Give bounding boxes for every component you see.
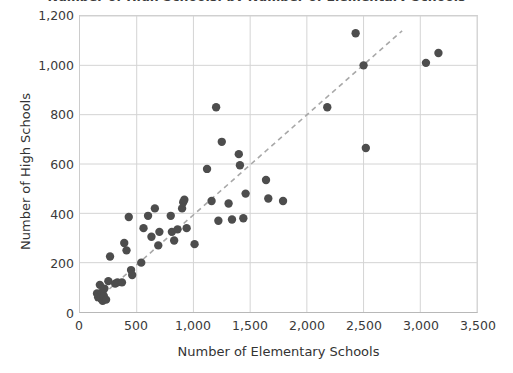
data-point (434, 49, 442, 57)
data-point (224, 199, 232, 207)
data-point (241, 189, 249, 197)
data-point (203, 165, 211, 173)
data-point (139, 224, 147, 232)
y-tick-label: 1,200 (4, 8, 74, 23)
x-tick-label: 1,500 (232, 318, 268, 333)
data-point (228, 215, 236, 223)
y-tick-label: 200 (4, 256, 74, 271)
chart-title: Number of High Schools, by Number of Ele… (0, 0, 513, 1)
data-point (151, 204, 159, 212)
data-point (190, 240, 198, 248)
data-point (207, 197, 215, 205)
data-point (359, 61, 367, 69)
x-tick-label: 2,500 (346, 318, 382, 333)
data-point (279, 197, 287, 205)
x-tick-label: 2,000 (289, 318, 325, 333)
data-point (264, 194, 272, 202)
data-point (144, 212, 152, 220)
data-point (155, 228, 163, 236)
plot-area (79, 15, 478, 313)
x-tick-label: 0 (75, 318, 83, 333)
data-point (106, 252, 114, 260)
x-tick-label: 3,500 (460, 318, 496, 333)
data-point (102, 295, 110, 303)
data-point (137, 258, 145, 266)
data-point (167, 212, 175, 220)
data-point (128, 271, 136, 279)
data-point (125, 213, 133, 221)
x-tick-label: 500 (124, 318, 148, 333)
x-tick-label: 3,000 (403, 318, 439, 333)
y-tick-label: 800 (4, 107, 74, 122)
data-point (214, 217, 222, 225)
data-point (362, 144, 370, 152)
data-point (118, 278, 126, 286)
data-point (120, 239, 128, 247)
data-point (100, 284, 108, 292)
data-point (173, 225, 181, 233)
data-point (182, 224, 190, 232)
x-tick-label: 1,000 (175, 318, 211, 333)
scatter-chart: Number of High Schools, by Number of Ele… (0, 0, 513, 373)
x-axis-ticks: 05001,0001,5002,0002,5003,0003,500 (79, 318, 478, 336)
data-point (147, 233, 155, 241)
y-axis-ticks: 02004006008001,0001,200 (0, 15, 74, 313)
data-points (80, 16, 477, 312)
data-point (180, 196, 188, 204)
data-point (236, 161, 244, 169)
data-point (212, 103, 220, 111)
data-point (170, 236, 178, 244)
data-point (154, 241, 162, 249)
data-point (262, 176, 270, 184)
y-tick-label: 0 (4, 306, 74, 321)
x-axis-title: Number of Elementary Schools (79, 344, 478, 359)
data-point (235, 150, 243, 158)
y-tick-label: 600 (4, 157, 74, 172)
y-tick-label: 400 (4, 206, 74, 221)
y-tick-label: 1,000 (4, 57, 74, 72)
data-point (218, 138, 226, 146)
data-point (422, 59, 430, 67)
data-point (122, 246, 130, 254)
data-point (351, 29, 359, 37)
data-point (323, 103, 331, 111)
data-point (239, 214, 247, 222)
